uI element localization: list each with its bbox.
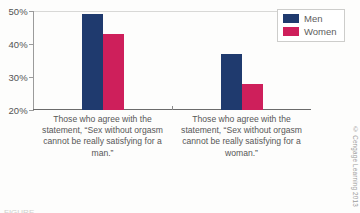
plot-top-rule	[33, 11, 311, 12]
y-axis-tick	[29, 44, 34, 45]
legend-label-women: Women	[304, 26, 337, 37]
legend-swatch-men	[283, 14, 299, 23]
x-axis-category-labels: Those who agree with the statement, “Sex…	[33, 114, 311, 159]
x-axis-group-separator-tick	[172, 106, 173, 110]
bar-women-group-1	[103, 34, 124, 110]
category-label-1: Those who agree with the statement, “Sex…	[33, 114, 172, 159]
legend-label-men: Men	[304, 13, 322, 24]
y-axis-tick-label: 30%	[8, 71, 28, 82]
y-axis-line	[33, 11, 34, 110]
copyright-credit: © Cengage Learning 2013	[352, 126, 359, 207]
bar-women-group-2	[242, 84, 263, 110]
bar-men-group-1	[82, 14, 103, 110]
figure-caption: FIGURE	[4, 208, 34, 213]
legend-item-men[interactable]: Men	[283, 13, 337, 24]
y-axis-tick-label: 20%	[8, 105, 28, 116]
legend-swatch-women	[283, 27, 299, 36]
bar-men-group-2	[221, 54, 242, 110]
category-label-2: Those who agree with the statement, “Sex…	[172, 114, 311, 159]
y-axis-tick-label: 50%	[8, 6, 28, 17]
bar-chart: 50%40%30%20% Men Women Those who agree w…	[0, 0, 360, 213]
legend-item-women[interactable]: Women	[283, 26, 337, 37]
y-axis-tick	[29, 77, 34, 78]
plot-area: 50%40%30%20%	[33, 11, 311, 110]
legend: Men Women	[277, 9, 345, 42]
y-axis-tick	[29, 110, 34, 111]
y-axis-tick	[29, 11, 34, 12]
y-axis-tick-label: 40%	[8, 38, 28, 49]
